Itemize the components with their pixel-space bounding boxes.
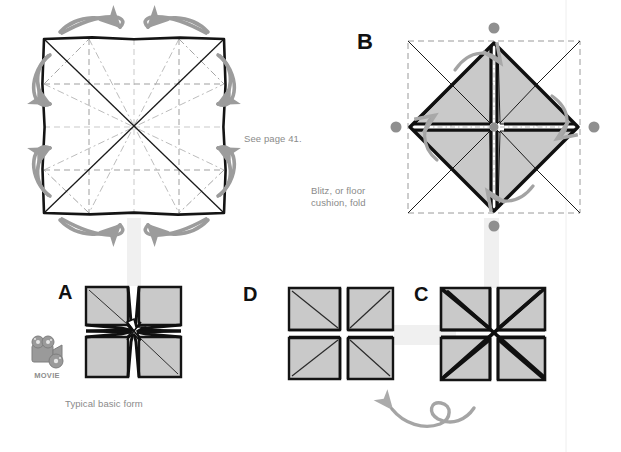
movie-badge[interactable]: MOVIE xyxy=(24,334,70,382)
origami-illustration xyxy=(0,0,621,452)
movie-badge-label: MOVIE xyxy=(24,371,70,380)
panel-a-figure xyxy=(86,287,181,377)
see-page-caption: See page 41. xyxy=(244,133,302,145)
panel-c-diagonal-x xyxy=(443,290,543,378)
panel-c-figure xyxy=(441,288,545,380)
blitz-fold-caption: Blitz, or floor cushion, fold xyxy=(311,185,366,209)
typical-basic-form-caption: Typical basic form xyxy=(65,398,143,410)
panel-letter-d: D xyxy=(243,283,257,306)
diagram-canvas: B A D C See page 41. Blitz, or floor cus… xyxy=(0,0,621,452)
main-diagonals xyxy=(44,39,224,213)
panel-letter-b: B xyxy=(357,29,373,55)
panel-b-figure xyxy=(391,23,600,232)
panel-letter-a: A xyxy=(58,281,72,304)
panel-d-figure xyxy=(289,288,393,379)
panel-crease-pattern xyxy=(34,17,235,235)
movie-camera-icon xyxy=(24,334,70,370)
turn-over-loop-arrow xyxy=(392,403,474,427)
panel-letter-c: C xyxy=(414,283,428,306)
